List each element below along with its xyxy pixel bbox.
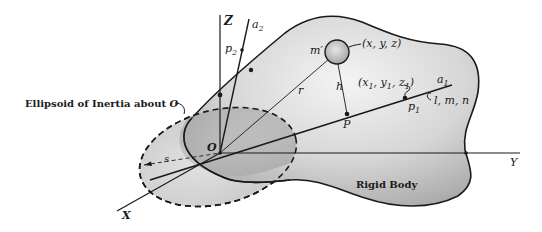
- x-axis-label: X: [121, 209, 131, 222]
- point-P: [345, 112, 350, 117]
- rigid-body-caption: Rigid Body: [356, 179, 418, 190]
- mass-coords-label: (x, y, z): [362, 37, 401, 50]
- semi-axis-label: s: [164, 153, 169, 164]
- ellipsoid-caption: Ellipsoid of Inertia about O: [25, 98, 179, 109]
- origin-label: O: [207, 141, 217, 154]
- radius-vector-label: r: [298, 84, 304, 97]
- direction-cosines-label: l, m, n: [434, 94, 469, 107]
- z-body-intersection-point: [218, 93, 223, 98]
- origin-point: [218, 151, 222, 155]
- y-body-intersection-point: [464, 151, 468, 155]
- point-p2: [240, 48, 244, 52]
- p2-label: p2: [225, 42, 237, 57]
- a2-label: a2: [252, 18, 264, 33]
- distance-h-label: h: [336, 80, 343, 93]
- ellipsoid-of-inertia-diagram: Z Y X O a2 a1 p2 p1 P m′ (x, y, z) (x1, …: [0, 0, 542, 232]
- point-P-label: P: [342, 118, 351, 131]
- z-axis-label: Z: [223, 14, 234, 28]
- a2-body-intersection-point: [249, 68, 253, 72]
- mass-element: [325, 40, 349, 64]
- y-axis-label: Y: [510, 156, 519, 169]
- mass-label: m′: [310, 44, 323, 57]
